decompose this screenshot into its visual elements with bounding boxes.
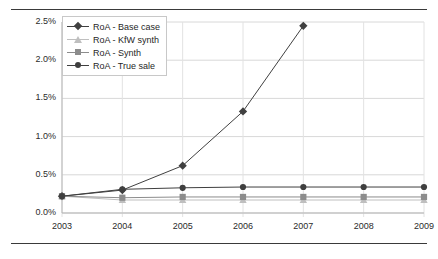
legend-marker [75, 62, 81, 68]
legend-marker-diamond-icon [67, 21, 89, 32]
x-tick-label: 2006 [223, 221, 263, 231]
y-tick-label: 0.5% [22, 169, 56, 179]
legend-marker [75, 49, 81, 55]
data-point-5 [361, 194, 367, 200]
data-point-6 [421, 184, 427, 190]
y-tick-label: 2.5% [22, 16, 56, 26]
data-point-1 [119, 186, 125, 192]
x-tick-label: 2009 [404, 221, 438, 231]
x-tick-label: 2004 [102, 221, 142, 231]
data-point-5 [361, 184, 367, 190]
data-point-4 [299, 22, 307, 30]
legend-marker-circle-icon [67, 60, 89, 71]
data-point-0 [59, 193, 65, 199]
legend-item: RoA - True sale [67, 59, 160, 72]
y-tick-label: 0.0% [22, 207, 56, 217]
legend-item: RoA - KfW synth [67, 33, 160, 46]
data-point-2 [180, 194, 186, 200]
legend-label: RoA - True sale [93, 61, 155, 71]
legend-item: RoA - Base case [67, 20, 160, 33]
data-point-4 [300, 194, 306, 200]
data-point-1 [119, 195, 125, 201]
x-tick-label: 2003 [42, 221, 82, 231]
data-point-2 [180, 185, 186, 191]
legend-marker-square-icon [67, 47, 89, 58]
x-tick-label: 2008 [344, 221, 384, 231]
data-point-6 [421, 194, 427, 200]
data-point-3 [240, 194, 246, 200]
chart-legend: RoA - Base caseRoA - KfW synthRoA - Synt… [62, 16, 167, 76]
x-tick-label: 2007 [283, 221, 323, 231]
data-point-4 [300, 184, 306, 190]
y-tick-label: 2.0% [22, 54, 56, 64]
legend-label: RoA - Synth [93, 48, 141, 58]
legend-label: RoA - Base case [93, 22, 160, 32]
y-tick-label: 1.0% [22, 131, 56, 141]
legend-label: RoA - KfW synth [93, 35, 159, 45]
legend-item: RoA - Synth [67, 46, 160, 59]
data-point-3 [240, 184, 246, 190]
chart-figure: 0.0%0.5%1.0%1.5%2.0%2.5% 200320042005200… [0, 0, 438, 259]
legend-marker [74, 22, 82, 30]
legend-marker-triangle-icon [67, 34, 89, 45]
y-tick-label: 1.5% [22, 92, 56, 102]
x-tick-label: 2005 [163, 221, 203, 231]
legend-marker [74, 36, 82, 43]
